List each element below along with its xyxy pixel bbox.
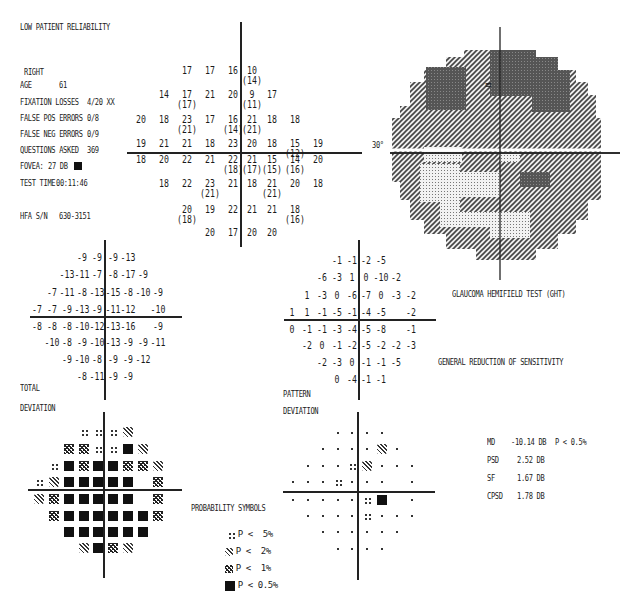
threshold-retest-value: (21) (177, 125, 197, 135)
pattern-deviation-cell: -5 (376, 308, 386, 318)
prob-05-icon (64, 527, 74, 537)
gray-scale-svg: ≡ (380, 22, 625, 284)
legend-item-p05: P < 0.5% (203, 570, 278, 597)
prob-2-icon (138, 444, 148, 454)
pattern-deviation-cell: -3 (317, 291, 327, 301)
normal-dot-icon (322, 448, 324, 450)
prob-05-icon (123, 511, 133, 521)
total-deviation-cell: -9 (77, 253, 87, 263)
total-deviation-cell: -13 (121, 253, 136, 263)
pattern-deviation-cell: 0 (290, 325, 295, 335)
prob-1-icon (123, 461, 133, 471)
prob-05-icon (93, 494, 103, 504)
threshold-cell: 18 (267, 115, 277, 125)
normal-dot-icon (411, 515, 413, 517)
threshold-cell: 23(21) (200, 179, 220, 199)
pattern-deviation-cell: -6 (347, 291, 357, 301)
threshold-cell: 20(18) (177, 205, 197, 225)
threshold-cell: 17 (182, 66, 192, 76)
threshold-cell: 21(21) (242, 115, 262, 135)
total-deviation-cell: -8 (77, 372, 87, 382)
threshold-retest-value: (14) (223, 125, 243, 135)
prob-05-icon (64, 461, 74, 471)
ght-title: GLAUCOMA HEMIFIELD TEST (GHT) (452, 289, 566, 299)
threshold-cell: 20 (136, 115, 146, 125)
prob-1-icon (64, 444, 74, 454)
normal-dot-icon (322, 481, 324, 483)
normal-dot-icon (411, 499, 413, 501)
normal-dot-icon (337, 499, 339, 501)
total-deviation-cell: -8 (108, 270, 118, 280)
normal-dot-icon (337, 515, 339, 517)
pattern-deviation-cell: 1 (305, 308, 310, 318)
normal-dot-icon (381, 481, 383, 483)
total-deviation-cell: -9 (108, 372, 118, 382)
normal-dot-icon (307, 465, 309, 467)
prob-2-icon (123, 543, 133, 553)
threshold-cell: 16(14) (223, 115, 243, 135)
normal-dot-icon (337, 548, 339, 550)
pattern-deviation-cell: -2 (406, 308, 416, 318)
prob-05-icon (123, 444, 133, 454)
total-deviation-cell: -7 (32, 305, 42, 315)
prob-5-icon (109, 428, 117, 436)
total-deviation-cell: -11 (151, 338, 166, 348)
normal-dot-icon (307, 515, 309, 517)
prob-1-icon (153, 511, 163, 521)
prob-05-icon (64, 511, 74, 521)
prob-05-icon (79, 511, 89, 521)
normal-dot-icon (351, 499, 353, 501)
normal-dot-icon (381, 515, 383, 517)
total-deviation-cell: -9 (108, 355, 118, 365)
pattern-deviation-label-1: PATTERN (283, 389, 310, 399)
threshold-cell: 20 (247, 139, 257, 149)
threshold-grid: 17171610(14)1417(17)21209(11)17201823(21… (0, 0, 380, 250)
threshold-retest-value: (17) (242, 165, 262, 175)
total-deviation-cell: -9 (138, 338, 148, 348)
threshold-retest-value: (15) (262, 165, 282, 175)
threshold-cell: 14(16) (285, 155, 305, 175)
threshold-cell: 18 (247, 179, 257, 189)
prob-5-icon (109, 445, 117, 453)
prob-05-icon (64, 477, 74, 487)
pattern-deviation-cell: -1 (332, 341, 342, 351)
normal-dot-icon (292, 499, 294, 501)
pattern-deviation-cell: -3 (332, 325, 342, 335)
normal-dot-icon (381, 548, 383, 550)
normal-dot-icon (366, 448, 368, 450)
gray-scale-plot: ≡ 30° (380, 22, 625, 284)
index-label-md: MD (487, 437, 495, 447)
total-deviation-cell: -12 (136, 355, 151, 365)
total-deviation-label-2: DEVIATION (20, 403, 55, 413)
prob-1-icon (153, 477, 163, 487)
pattern-deviation-cell: -10 (374, 273, 389, 283)
pattern-deviation-cell: -2 (302, 341, 312, 351)
threshold-cell: 18 (159, 115, 169, 125)
index-label-psd: PSD (487, 455, 499, 465)
pattern-deviation-cell: -2 (406, 291, 416, 301)
prob-1-icon (49, 494, 59, 504)
normal-dot-icon (366, 481, 368, 483)
pattern-deviation-cell: -1 (347, 308, 357, 318)
prob-5-icon (35, 478, 43, 486)
prob-2-icon (34, 494, 44, 504)
pattern-deviation-cell: -5 (391, 358, 401, 368)
threshold-retest-value: (21) (242, 125, 262, 135)
pattern-deviation-cell: 0 (335, 375, 340, 385)
prob-05-icon (138, 527, 148, 537)
normal-dot-icon (411, 465, 413, 467)
total-deviation-cell: -7 (47, 288, 57, 298)
threshold-cell: 17(17) (177, 90, 197, 110)
normal-dot-icon (351, 448, 353, 450)
prob-2-icon (123, 427, 133, 437)
pattern-deviation-symbol-vertical-axis (357, 412, 359, 580)
total-deviation-cell: -7 (47, 305, 57, 315)
prob-05-icon (123, 494, 133, 504)
pattern-deviation-cell: -7 (361, 291, 371, 301)
pattern-deviation-cell: -5 (376, 256, 386, 266)
pattern-deviation-cell: -5 (361, 341, 371, 351)
prob-05-icon (138, 511, 148, 521)
total-deviation-cell: -7 (92, 270, 102, 280)
pattern-deviation-cell: -1 (317, 308, 327, 318)
prob-1-icon (138, 461, 148, 471)
